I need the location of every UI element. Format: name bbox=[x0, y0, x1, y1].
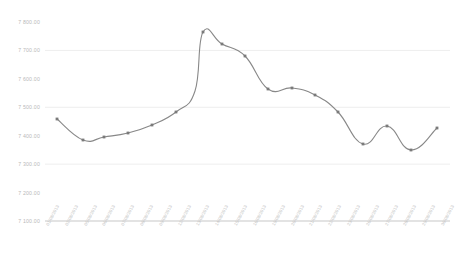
y-axis-tick-label: 7 800.00 bbox=[6, 19, 40, 25]
data-point-marker bbox=[56, 118, 59, 121]
gridlines bbox=[45, 50, 450, 221]
y-axis-tick-label: 7 500.00 bbox=[6, 104, 40, 110]
data-point-marker bbox=[386, 125, 389, 128]
data-point-marker bbox=[221, 43, 224, 46]
data-point-marker bbox=[103, 136, 106, 139]
data-point-marker bbox=[244, 55, 247, 58]
data-point-marker bbox=[151, 124, 154, 127]
data-point-marker bbox=[314, 94, 317, 97]
data-point-marker bbox=[202, 31, 205, 34]
data-point-marker bbox=[82, 139, 85, 142]
y-axis-tick-label: 7 600.00 bbox=[6, 76, 40, 82]
data-point-marker bbox=[267, 88, 270, 91]
y-axis-tick-label: 7 700.00 bbox=[6, 47, 40, 53]
y-axis-tick-label: 7 300.00 bbox=[6, 161, 40, 167]
y-axis-tick-label: 7 400.00 bbox=[6, 133, 40, 139]
data-point-marker bbox=[175, 111, 178, 114]
data-point-marker bbox=[127, 132, 130, 135]
y-axis-tick-label: 7 200.00 bbox=[6, 190, 40, 196]
data-point-marker bbox=[291, 87, 294, 90]
y-axis-tick-label: 7 100.00 bbox=[6, 218, 40, 224]
data-point-marker bbox=[410, 149, 413, 152]
data-point-marker bbox=[436, 127, 439, 130]
line-chart: 7 800.007 700.007 600.007 500.007 400.00… bbox=[0, 0, 459, 254]
series-line-index bbox=[57, 29, 437, 150]
series-markers bbox=[56, 31, 439, 152]
data-point-marker bbox=[362, 143, 365, 146]
data-point-marker bbox=[337, 111, 340, 114]
